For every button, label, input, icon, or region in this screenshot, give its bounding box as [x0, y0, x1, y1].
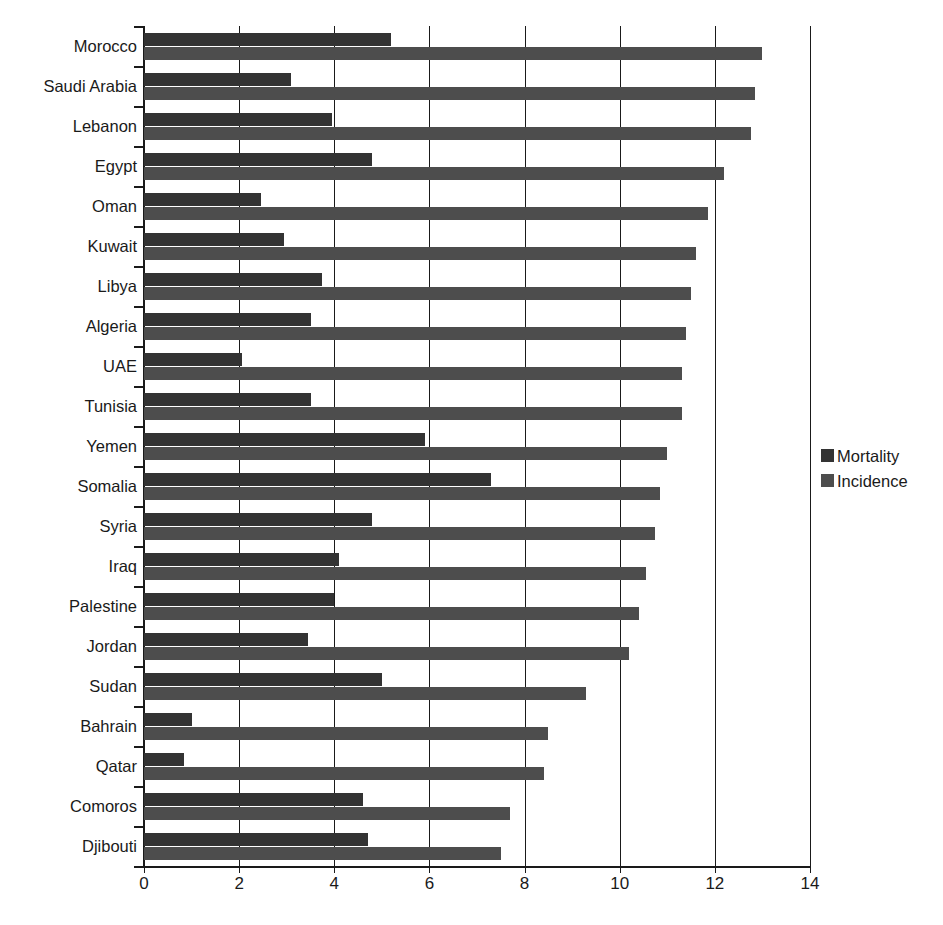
- bar-incidence-qatar: [144, 767, 544, 780]
- bar-mortality-algeria: [144, 313, 311, 326]
- bar-chart: MoroccoSaudi ArabiaLebanonEgyptOmanKuwai…: [0, 0, 943, 925]
- x-tick-label-8: 8: [505, 874, 545, 894]
- bar-mortality-somalia: [144, 473, 491, 486]
- y-axis-label-syria: Syria: [7, 517, 137, 535]
- bar-mortality-lebanon: [144, 113, 332, 126]
- bar-incidence-yemen: [144, 447, 667, 460]
- y-tick-mark-9: [134, 386, 144, 388]
- bar-incidence-sudan: [144, 687, 586, 700]
- y-tick-mark-14: [134, 586, 144, 588]
- bar-mortality-palestine: [144, 593, 334, 606]
- y-axis-label-lebanon: Lebanon: [7, 117, 137, 135]
- y-axis-label-egypt: Egypt: [7, 157, 137, 175]
- x-tick-label-2: 2: [219, 874, 259, 894]
- legend-label-incidence: Incidence: [837, 472, 908, 490]
- bar-incidence-oman: [144, 207, 708, 220]
- bar-mortality-saudi-arabia: [144, 73, 291, 86]
- legend-item-mortality: Mortality: [821, 443, 941, 468]
- x-tick-label-12: 12: [695, 874, 735, 894]
- y-tick-mark-12: [134, 506, 144, 508]
- bar-incidence-algeria: [144, 327, 686, 340]
- y-axis-label-uae: UAE: [7, 357, 137, 375]
- bar-mortality-qatar: [144, 753, 184, 766]
- bar-mortality-oman: [144, 193, 261, 206]
- y-axis-label-tunisia: Tunisia: [7, 397, 137, 415]
- x-tick-label-10: 10: [600, 874, 640, 894]
- x-axis-line: [144, 866, 811, 868]
- bar-incidence-kuwait: [144, 247, 696, 260]
- chart-legend: Mortality Incidence: [821, 443, 941, 493]
- y-axis-label-libya: Libya: [7, 277, 137, 295]
- bar-incidence-egypt: [144, 167, 724, 180]
- y-tick-mark-19: [134, 786, 144, 788]
- y-tick-mark-5: [134, 226, 144, 228]
- y-tick-mark-17: [134, 706, 144, 708]
- bar-incidence-comoros: [144, 807, 510, 820]
- bar-incidence-morocco: [144, 47, 762, 60]
- bar-incidence-djibouti: [144, 847, 501, 860]
- bar-mortality-egypt: [144, 153, 372, 166]
- bar-incidence-iraq: [144, 567, 646, 580]
- y-axis-label-qatar: Qatar: [7, 757, 137, 775]
- legend-label-mortality: Mortality: [837, 447, 899, 465]
- y-axis-label-yemen: Yemen: [7, 437, 137, 455]
- bar-mortality-uae: [144, 353, 242, 366]
- y-axis-label-oman: Oman: [7, 197, 137, 215]
- y-tick-mark-18: [134, 746, 144, 748]
- y-axis-label-djibouti: Djibouti: [7, 837, 137, 855]
- y-axis-label-comoros: Comoros: [7, 797, 137, 815]
- bar-mortality-tunisia: [144, 393, 311, 406]
- y-axis-label-palestine: Palestine: [7, 597, 137, 615]
- y-axis-category-labels: MoroccoSaudi ArabiaLebanonEgyptOmanKuwai…: [0, 0, 137, 925]
- y-tick-mark-20: [134, 826, 144, 828]
- y-tick-mark-13: [134, 546, 144, 548]
- y-tick-mark-16: [134, 666, 144, 668]
- bar-incidence-syria: [144, 527, 655, 540]
- bar-mortality-comoros: [144, 793, 363, 806]
- bar-mortality-iraq: [144, 553, 339, 566]
- bar-incidence-jordan: [144, 647, 629, 660]
- y-axis-label-iraq: Iraq: [7, 557, 137, 575]
- bar-incidence-palestine: [144, 607, 639, 620]
- bar-incidence-tunisia: [144, 407, 682, 420]
- y-axis-label-saudi-arabia: Saudi Arabia: [7, 77, 137, 95]
- bar-mortality-jordan: [144, 633, 308, 646]
- legend-item-incidence: Incidence: [821, 468, 941, 493]
- y-axis-label-somalia: Somalia: [7, 477, 137, 495]
- y-tick-mark-end: [134, 866, 144, 868]
- bar-mortality-djibouti: [144, 833, 368, 846]
- y-axis-label-sudan: Sudan: [7, 677, 137, 695]
- y-axis-label-kuwait: Kuwait: [7, 237, 137, 255]
- y-tick-mark-11: [134, 466, 144, 468]
- bar-incidence-uae: [144, 367, 682, 380]
- bar-mortality-bahrain: [144, 713, 192, 726]
- bar-incidence-libya: [144, 287, 691, 300]
- bar-mortality-libya: [144, 273, 322, 286]
- bar-mortality-morocco: [144, 33, 391, 46]
- gridline-x-14: [810, 26, 811, 866]
- y-axis-label-morocco: Morocco: [7, 37, 137, 55]
- bar-incidence-saudi-arabia: [144, 87, 755, 100]
- bar-mortality-kuwait: [144, 233, 284, 246]
- x-tick-label-6: 6: [409, 874, 449, 894]
- y-tick-mark-8: [134, 346, 144, 348]
- y-tick-mark-6: [134, 266, 144, 268]
- bar-incidence-somalia: [144, 487, 660, 500]
- x-tick-label-0: 0: [124, 874, 164, 894]
- bar-mortality-syria: [144, 513, 372, 526]
- y-axis-label-jordan: Jordan: [7, 637, 137, 655]
- y-tick-mark-15: [134, 626, 144, 628]
- plot-area: [144, 26, 810, 866]
- mortality-swatch-icon: [821, 449, 834, 462]
- x-tick-mark-14: [810, 860, 811, 873]
- x-tick-label-14: 14: [790, 874, 830, 894]
- x-tick-label-4: 4: [314, 874, 354, 894]
- y-tick-mark-0: [134, 26, 144, 28]
- y-tick-mark-7: [134, 306, 144, 308]
- y-tick-mark-3: [134, 146, 144, 148]
- bar-incidence-bahrain: [144, 727, 548, 740]
- y-tick-mark-1: [134, 66, 144, 68]
- incidence-swatch-icon: [821, 474, 834, 487]
- y-tick-mark-2: [134, 106, 144, 108]
- y-tick-mark-4: [134, 186, 144, 188]
